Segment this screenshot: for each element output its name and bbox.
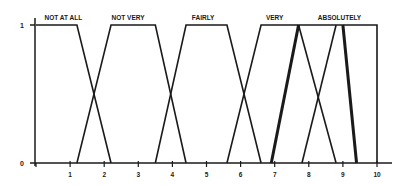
membership-function-chart: 12345678910 NOT AT ALLNOT VERYFAIRLYVERY…: [0, 0, 415, 185]
x-tick-label: 3: [136, 171, 140, 178]
x-tick-label: 5: [205, 171, 209, 178]
series-line: [343, 25, 357, 163]
x-tick-label: 6: [239, 171, 243, 178]
series-line: [36, 25, 111, 163]
term-label: NOT AT ALL: [44, 14, 82, 21]
y-tick-label-0: 0: [20, 160, 24, 167]
term-label: VERY: [266, 14, 284, 21]
term-label: ABSOLUTELY: [318, 14, 362, 21]
x-tick-label: 1: [68, 171, 72, 178]
y-tick-label-1: 1: [20, 22, 24, 29]
axes: [30, 18, 392, 166]
x-tick-label: 4: [171, 171, 175, 178]
series-lines: [36, 25, 377, 163]
x-tick-label: 7: [273, 171, 277, 178]
series-line: [155, 25, 261, 163]
term-labels: NOT AT ALLNOT VERYFAIRLYVERYABSOLUTELY: [44, 14, 361, 21]
series-line: [271, 25, 298, 163]
series-line: [77, 25, 186, 163]
x-tick-label: 10: [373, 171, 381, 178]
x-tick-label: 9: [341, 171, 345, 178]
x-tick-label: 8: [307, 171, 311, 178]
term-label: FAIRLY: [192, 14, 215, 21]
term-label: NOT VERY: [112, 14, 146, 21]
x-tick-label: 2: [102, 171, 106, 178]
